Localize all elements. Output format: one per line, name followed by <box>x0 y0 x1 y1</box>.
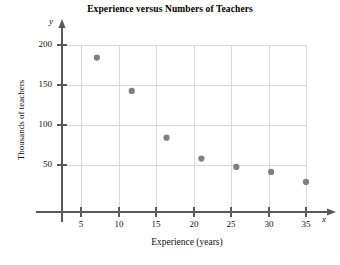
ytick-label-100: 100 <box>22 119 52 129</box>
data-point <box>94 54 100 60</box>
x-axis-variable-label: x <box>322 214 326 224</box>
data-point <box>198 155 204 161</box>
xtick-label-20: 20 <box>182 219 206 229</box>
grid-lines <box>62 45 306 212</box>
ytick-label-150: 150 <box>22 79 52 89</box>
y-axis-variable-label: y <box>49 16 53 26</box>
y-axis-title: Thousands of teachers <box>16 45 26 195</box>
xtick-label-15: 15 <box>144 219 168 229</box>
y-axis-arrow-icon <box>58 19 65 28</box>
ytick-label-200: 200 <box>22 39 52 49</box>
axes <box>36 26 330 222</box>
ytick-label-50: 50 <box>22 159 52 169</box>
xtick-label-30: 30 <box>257 219 281 229</box>
data-point <box>163 135 169 141</box>
data-point <box>303 179 309 185</box>
scatter-chart: Experience versus Numbers of Teachers <box>0 0 340 265</box>
xtick-label-25: 25 <box>219 219 243 229</box>
xtick-label-10: 10 <box>107 219 131 229</box>
x-axis-arrow-icon <box>327 208 336 215</box>
x-axis-title: Experience (years) <box>62 237 312 247</box>
data-point <box>233 164 239 170</box>
xtick-label-35: 35 <box>294 219 318 229</box>
xtick-label-5: 5 <box>69 219 93 229</box>
data-point <box>129 88 135 94</box>
data-point <box>268 169 274 175</box>
